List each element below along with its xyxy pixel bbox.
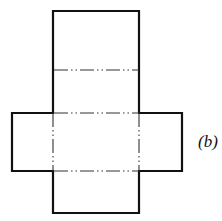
net-outline xyxy=(12,11,182,213)
fold-lines xyxy=(53,70,139,171)
box-net-diagram xyxy=(0,0,222,221)
figure-label: (b) xyxy=(198,132,218,152)
